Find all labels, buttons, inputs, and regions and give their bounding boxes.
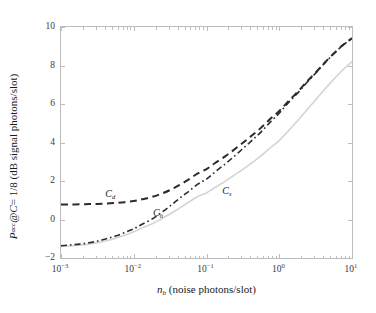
curve-label-c-d: Cd	[105, 188, 115, 200]
y-axis-title-at: @	[7, 213, 19, 223]
curve-label-c-s: Cs	[222, 185, 231, 197]
y-axis-title: Pacc @ C = 1/8 (dB signal photons/slot)	[0, 0, 26, 313]
y-axis-title-subscript: acc	[9, 223, 17, 233]
x-axis-title-text: (noise photons/slot)	[166, 283, 256, 295]
x-axis-title: nb (noise photons/slot)	[60, 283, 353, 297]
y-axis-title-c: C	[7, 205, 19, 212]
figure-container: 10−310−210−1100101 −20246810 CdChCs nb (…	[0, 0, 376, 313]
curve-label-c-h: Ch	[153, 207, 163, 219]
y-axis-title-rest: = 1/8 (dB signal photons/slot)	[7, 74, 19, 205]
y-tick-labels: −20246810	[0, 0, 376, 313]
y-axis-title-symbol: P	[7, 232, 19, 239]
